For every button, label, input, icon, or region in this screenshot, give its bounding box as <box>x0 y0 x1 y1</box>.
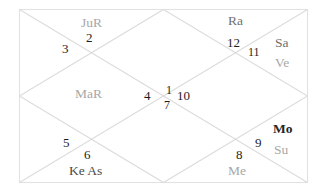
house-number-5: 5 <box>63 136 70 149</box>
planet-label-sun: Su <box>274 143 288 157</box>
vedic-birth-chart: 123456789101112 JuRRaSaVeMaRMoSuKe AsMe <box>0 0 327 194</box>
planet-label-rahu: Ra <box>228 14 243 28</box>
house-number-4: 4 <box>144 89 151 102</box>
planet-label-moon: Mo <box>273 122 293 136</box>
house-number-8: 8 <box>236 148 243 161</box>
planet-label-mercury: Me <box>228 164 246 178</box>
planet-label-ketu-ascendant: Ke As <box>69 164 102 178</box>
house-number-9: 9 <box>255 136 262 149</box>
house-number-12: 12 <box>227 36 240 49</box>
house-number-1: 1 <box>166 84 172 96</box>
house-number-3: 3 <box>62 42 69 55</box>
planet-label-saturn: Sa <box>275 36 289 50</box>
house-number-11: 11 <box>248 46 260 58</box>
planet-label-venus: Ve <box>275 56 289 70</box>
planet-label-jupiter-retrograde: JuR <box>81 16 102 30</box>
chart-grid <box>0 0 327 194</box>
chart-diagonals <box>20 10 308 183</box>
house-number-6: 6 <box>84 148 91 161</box>
house-number-7: 7 <box>164 99 170 111</box>
house-number-10: 10 <box>177 89 190 102</box>
house-number-2: 2 <box>86 31 93 44</box>
planet-label-mars-retrograde: MaR <box>75 87 102 101</box>
